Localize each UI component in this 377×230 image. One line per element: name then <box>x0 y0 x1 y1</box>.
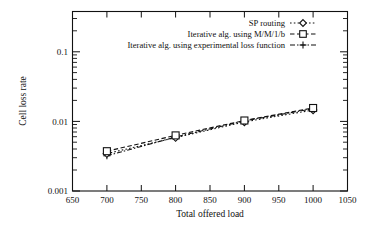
chart-figure: 0.001 0.01 0.1 650 700 750 800 850 900 9… <box>0 0 377 230</box>
y-axis-title: Cell loss rate <box>18 76 28 126</box>
x-tick-labels: 650 700 750 800 850 900 950 1000 1050 <box>66 195 357 205</box>
x-tick-label: 650 <box>66 195 80 205</box>
x-tick-label: 900 <box>238 195 252 205</box>
x-tick-label: 750 <box>135 195 149 205</box>
x-tick-label: 1050 <box>339 195 358 205</box>
y-tick-label: 0.01 <box>52 117 68 127</box>
legend-label-mm1b: Iterative alg. using M/M/1/b <box>188 29 285 39</box>
x-tick-label: 700 <box>100 195 114 205</box>
x-axis-title: Total offered load <box>176 209 244 219</box>
y-tick-label: 0.1 <box>57 47 68 57</box>
x-tick-label: 1000 <box>304 195 323 205</box>
legend-label-sp-routing: SP routing <box>249 18 286 28</box>
x-tick-label: 800 <box>169 195 183 205</box>
x-tick-label: 850 <box>203 195 217 205</box>
legend-label-experimental: Iterative alg. using experimental loss f… <box>127 40 285 50</box>
x-tick-label: 950 <box>272 195 286 205</box>
